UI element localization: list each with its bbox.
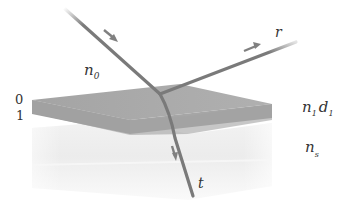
reflected-ray — [160, 42, 296, 94]
thin-film-diagram: n0 r 0 1 n1d1 ns t — [0, 0, 346, 218]
label-r: r — [275, 24, 283, 40]
incident-arrow-icon — [104, 30, 118, 42]
label-interface-1: 1 — [16, 108, 24, 123]
reflected-arrow-icon — [244, 42, 261, 51]
label-ns: ns — [305, 138, 319, 159]
label-t: t — [198, 175, 204, 191]
label-n0: n0 — [84, 61, 100, 81]
incident-ray — [64, 8, 160, 94]
label-n1-d1: n1d1 — [302, 98, 333, 118]
label-interface-0: 0 — [15, 92, 23, 107]
